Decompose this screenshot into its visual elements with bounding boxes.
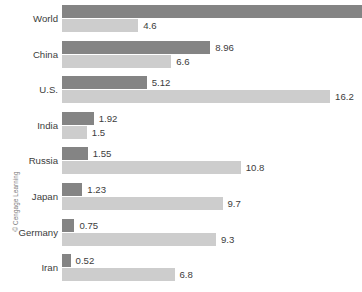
bar-value-label: 9.3 — [221, 234, 234, 245]
bar-value-label: 16.2 — [335, 91, 354, 102]
bar-light — [62, 197, 223, 210]
bar-value-label: 4.6 — [143, 20, 156, 31]
bar-light — [62, 126, 87, 139]
bar-value-label: 9.7 — [228, 198, 241, 209]
bar-dark — [62, 41, 210, 54]
bar-group: Iran0.526.8 — [0, 253, 362, 283]
bar-value-label: 10.8 — [246, 162, 265, 173]
bar-group: U.S.5.1216.2 — [0, 75, 362, 105]
category-label: India — [0, 120, 58, 131]
bar-value-label: 8.96 — [215, 42, 234, 53]
bar-light — [62, 268, 175, 281]
bar-dark — [62, 254, 71, 267]
category-label: U.S. — [0, 84, 58, 95]
bar-value-label: 1.5 — [92, 127, 105, 138]
bar-group: China8.966.6 — [0, 40, 362, 70]
bar-value-label: 1.55 — [93, 148, 112, 159]
bar-dark — [62, 219, 74, 232]
bar-dark — [62, 112, 94, 125]
bar-value-label: 6.6 — [176, 56, 189, 67]
bar-group: Germany0.759.3 — [0, 218, 362, 248]
bar-value-label: 1.23 — [87, 184, 106, 195]
bar-chart: © Cengage Learning World4.6China8.966.6U… — [0, 0, 362, 292]
category-label: Germany — [0, 227, 58, 238]
bar-group: India1.921.5 — [0, 111, 362, 141]
bar-light — [62, 55, 171, 68]
bar-light — [62, 19, 138, 32]
bar-value-label: 5.12 — [152, 77, 171, 88]
category-label: Japan — [0, 191, 58, 202]
bar-dark — [62, 147, 88, 160]
bar-value-label: 1.92 — [99, 113, 118, 124]
category-label: Iran — [0, 262, 58, 273]
bar-value-label: 6.8 — [180, 269, 193, 280]
bar-group: World4.6 — [0, 4, 362, 34]
category-label: China — [0, 49, 58, 60]
chart-plot-area: World4.6China8.966.6U.S.5.1216.2India1.9… — [0, 0, 362, 292]
bar-light — [62, 233, 216, 246]
category-label: Russia — [0, 155, 58, 166]
bar-dark — [62, 5, 362, 18]
bar-light — [62, 90, 330, 103]
bar-value-label: 0.75 — [79, 220, 98, 231]
category-label: World — [0, 13, 58, 24]
bar-value-label: 0.52 — [76, 255, 95, 266]
bar-group: Japan1.239.7 — [0, 182, 362, 212]
bar-group: Russia1.5510.8 — [0, 146, 362, 176]
bar-light — [62, 161, 241, 174]
bar-dark — [62, 76, 147, 89]
bar-dark — [62, 183, 82, 196]
